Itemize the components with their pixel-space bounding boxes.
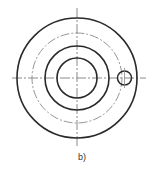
- concentric-circles-drawing: [0, 0, 154, 175]
- figure-label: b): [72, 152, 92, 162]
